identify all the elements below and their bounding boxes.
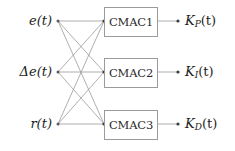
output-kd-subscript: D [195, 122, 202, 132]
output-kp-arg: (t) [201, 13, 216, 28]
input-node-dot-delta-e [57, 71, 60, 74]
input-label-r: r(t) [6, 116, 52, 131]
output-label-ki: KI(t) [185, 64, 214, 80]
output-ki-base: K [185, 64, 195, 79]
output-label-kd: KD(t) [185, 116, 217, 132]
output-ki-arg: (t) [198, 64, 213, 79]
arrowhead-kd [176, 122, 179, 125]
output-kd-arg: (t) [202, 116, 217, 131]
input-label-e: e(t) [6, 13, 52, 28]
input-node-dot-r [57, 123, 60, 126]
arrowhead-kp [176, 19, 179, 22]
output-label-kp: KP(t) [185, 13, 216, 29]
block-cmac3[interactable]: CMAC3 [104, 110, 158, 140]
input-label-delta-e: Δe(t) [0, 64, 52, 79]
output-kd-base: K [185, 116, 195, 131]
output-kp-base: K [185, 13, 195, 28]
cmac-pid-block-diagram: e(t) Δe(t) r(t) CMAC1 CMAC2 CMAC3 KP(t) … [0, 0, 235, 151]
arrowhead-ki [176, 70, 179, 73]
input-node-dot-e [57, 20, 60, 23]
block-cmac1[interactable]: CMAC1 [104, 7, 158, 37]
block-cmac2[interactable]: CMAC2 [104, 58, 158, 88]
